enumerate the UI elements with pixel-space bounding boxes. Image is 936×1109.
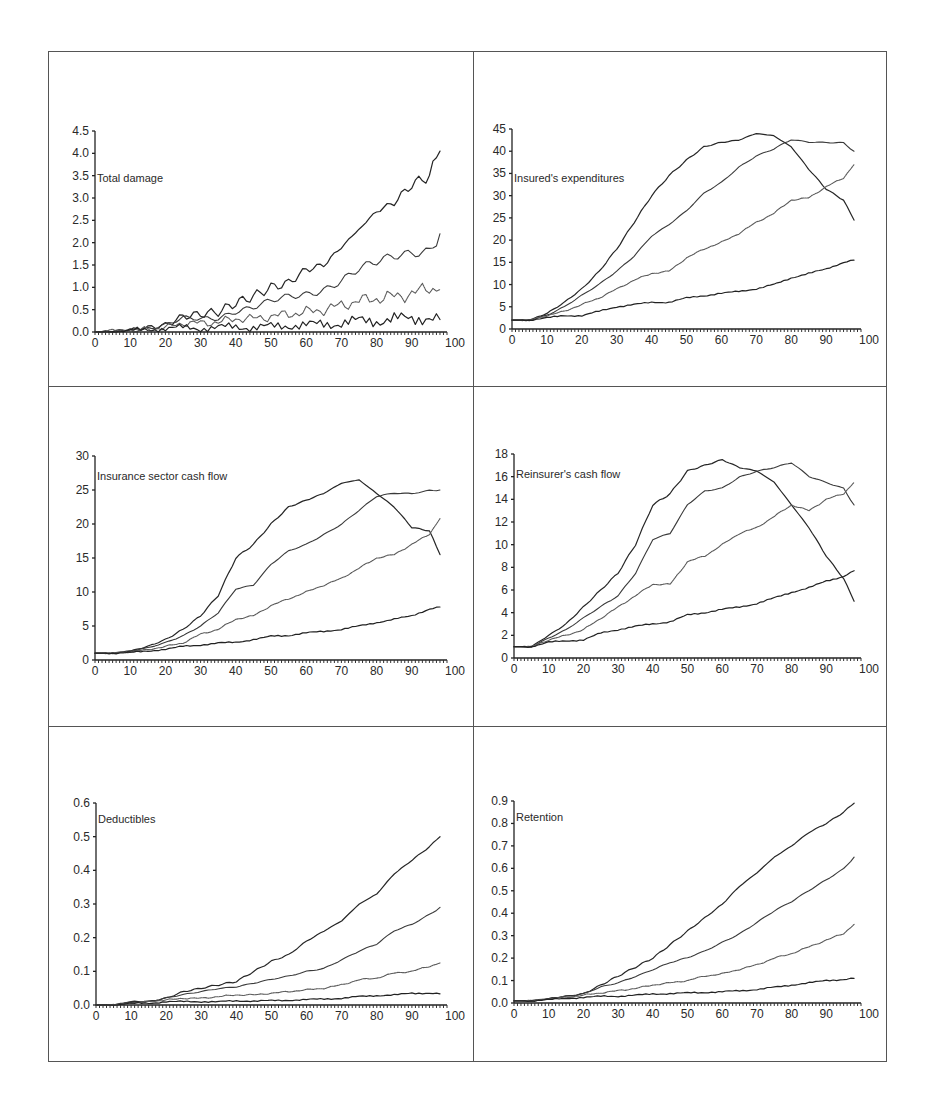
x-tick-label: 40 xyxy=(646,1007,660,1021)
y-tick-label: 0.0 xyxy=(491,996,508,1010)
figure-frame: Total damage0.00.51.01.52.02.53.03.54.04… xyxy=(48,51,887,1062)
y-tick-label: 0.9 xyxy=(491,794,508,808)
line-series-1 xyxy=(514,803,854,1001)
x-tick-label: 90 xyxy=(820,1007,834,1021)
x-tick-label: 50 xyxy=(681,1007,695,1021)
x-tick-label: 100 xyxy=(859,1007,879,1021)
y-tick-label: 0.1 xyxy=(491,974,508,988)
x-tick-label: 0 xyxy=(511,1007,518,1021)
x-tick-label: 30 xyxy=(611,1007,625,1021)
panel-retention: Retention0.00.10.20.30.40.50.60.70.80.90… xyxy=(49,52,888,1063)
y-tick-label: 0.5 xyxy=(491,884,508,898)
x-tick-label: 10 xyxy=(542,1007,556,1021)
line-series-2 xyxy=(514,857,854,1001)
y-tick-label: 0.6 xyxy=(491,861,508,875)
x-tick-label: 20 xyxy=(577,1007,591,1021)
chart-title: Retention xyxy=(516,811,563,823)
x-tick-label: 60 xyxy=(716,1007,730,1021)
y-tick-label: 0.8 xyxy=(491,816,508,830)
x-tick-label: 80 xyxy=(785,1007,799,1021)
y-tick-label: 0.4 xyxy=(491,906,508,920)
x-tick-label: 70 xyxy=(750,1007,764,1021)
line-series-3 xyxy=(514,924,854,1001)
y-tick-label: 0.7 xyxy=(491,839,508,853)
y-tick-label: 0.2 xyxy=(491,951,508,965)
y-tick-label: 0.3 xyxy=(491,929,508,943)
chart-retention: Retention0.00.10.20.30.40.50.60.70.80.90… xyxy=(49,52,888,1063)
